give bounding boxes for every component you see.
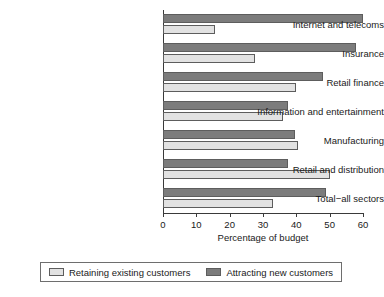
x-tick-mark	[163, 213, 164, 217]
category-label: Total−all sectors	[228, 194, 384, 204]
x-tick-mark	[330, 213, 331, 217]
bar-chart-figure: Internet and telecomsInsuranceRetail fin…	[0, 0, 384, 297]
category-label: Insurance	[228, 49, 384, 59]
legend-swatch-attracting	[206, 268, 221, 276]
legend-swatch-retaining	[49, 268, 64, 276]
category-label: Retail finance	[228, 78, 384, 88]
x-tick-label: 20	[215, 219, 245, 230]
x-tick-label: 30	[248, 219, 278, 230]
legend-item-attracting: Attracting new customers	[206, 267, 333, 278]
category-label: Internet and telecoms	[228, 20, 384, 30]
x-tick-label: 0	[148, 219, 178, 230]
x-tick-mark	[230, 213, 231, 217]
x-tick-label: 10	[181, 219, 211, 230]
legend-item-retaining: Retaining existing customers	[49, 267, 190, 278]
chart-legend: Retaining existing customers Attracting …	[40, 262, 342, 282]
x-axis-title: Percentage of budget	[163, 232, 363, 243]
x-tick-mark	[363, 213, 364, 217]
x-tick-label: 60	[348, 219, 378, 230]
bar-retaining-existing-customers	[163, 25, 215, 34]
x-tick-mark	[263, 213, 264, 217]
x-tick-mark	[296, 213, 297, 217]
category-label: Information and entertainment	[228, 107, 384, 117]
legend-label-attracting: Attracting new customers	[226, 267, 333, 278]
x-tick-mark	[196, 213, 197, 217]
legend-label-retaining: Retaining existing customers	[69, 267, 190, 278]
category-label: Retail and distribution	[228, 165, 384, 175]
x-tick-label: 50	[315, 219, 345, 230]
x-tick-label: 40	[281, 219, 311, 230]
category-label: Manufacturing	[228, 136, 384, 146]
